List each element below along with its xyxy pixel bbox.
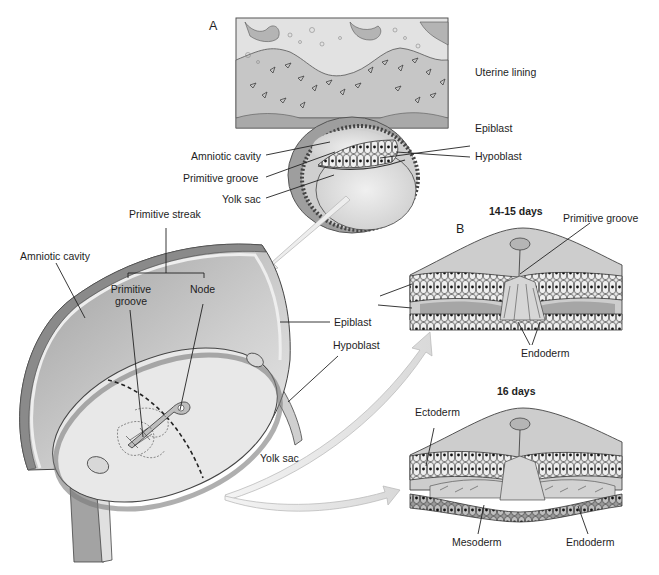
stage-14-15-days: 14-15 days <box>489 205 543 217</box>
label-uterine-lining: Uterine lining <box>475 66 536 78</box>
label-primitive-groove-disc: Primitive groove <box>108 283 154 307</box>
diagram-artwork <box>0 0 659 575</box>
label-primitive-streak: Primitive streak <box>129 208 201 220</box>
label-amniotic-cavity-a: Amniotic cavity <box>191 150 261 162</box>
label-ectoderm: Ectoderm <box>415 406 460 418</box>
panel-b-letter: B <box>456 222 464 236</box>
label-epiblast-a: Epiblast <box>475 122 512 134</box>
label-amniotic-cavity-disc: Amniotic cavity <box>20 250 90 262</box>
label-hypoblast-disc: Hypoblast <box>333 339 380 351</box>
label-endoderm-bottom: Endoderm <box>566 536 614 548</box>
cross-section-14-15-days <box>410 228 622 330</box>
implanted-blastocyst <box>288 117 418 233</box>
panel-a-letter: A <box>209 19 217 33</box>
label-primitive-groove-line2: groove <box>108 295 154 307</box>
label-mesoderm: Mesoderm <box>452 536 502 548</box>
label-yolk-sac-a: Yolk sac <box>222 193 261 205</box>
label-node: Node <box>190 283 215 295</box>
label-epiblast-disc: Epiblast <box>334 316 371 328</box>
cross-section-16-days <box>410 408 622 522</box>
label-primitive-groove-b: Primitive groove <box>563 212 638 224</box>
embryonic-disc-3d <box>20 244 303 562</box>
label-primitive-groove-a: Primitive groove <box>183 172 258 184</box>
label-primitive-groove-line1: Primitive <box>108 283 154 295</box>
label-endoderm-top: Endoderm <box>521 347 569 359</box>
uterine-lining-block <box>236 18 448 128</box>
label-hypoblast-a: Hypoblast <box>475 150 522 162</box>
stage-16-days: 16 days <box>497 385 536 397</box>
label-yolk-sac-disc: Yolk sac <box>260 452 299 464</box>
